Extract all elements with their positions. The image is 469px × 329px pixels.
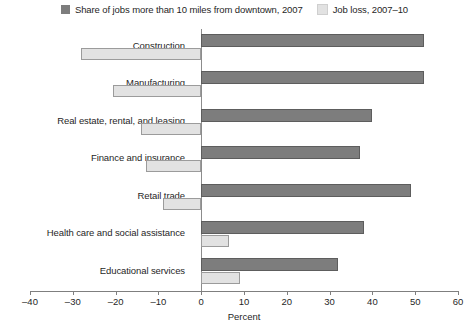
bar-job-loss: [113, 85, 201, 97]
bar-share-of-jobs: [201, 258, 338, 271]
value-axis-tick-label: –40: [22, 296, 38, 308]
legend-item-label: Share of jobs more than 10 miles from do…: [75, 4, 303, 15]
value-axis-tick-label: –30: [65, 296, 81, 308]
value-axis-tick-label: 60: [453, 296, 464, 308]
bar-group-health-care-and-social-assistance: [30, 216, 458, 253]
value-axis-tick-label: –10: [150, 296, 166, 308]
value-axis-tick: [287, 291, 288, 295]
value-axis-tick-label: 50: [410, 296, 421, 308]
value-axis-tick: [158, 291, 159, 295]
bar-group-construction: [30, 29, 458, 66]
bar-job-loss: [146, 160, 202, 172]
bar-job-loss: [201, 272, 240, 284]
value-axis-tick: [201, 291, 202, 295]
bar-share-of-jobs: [201, 71, 424, 84]
value-axis-tick-label: 0: [199, 296, 204, 308]
chart-legend: Share of jobs more than 10 miles from do…: [0, 4, 469, 15]
value-axis-tick: [30, 291, 31, 295]
value-axis-tick-labels: –40–30–20–100102030405060: [30, 296, 458, 310]
value-axis-tick: [415, 291, 416, 295]
value-axis-tick-label: 30: [324, 296, 335, 308]
bar-share-of-jobs: [201, 34, 424, 47]
bar-series-container: [30, 29, 458, 291]
bar-job-loss: [201, 235, 229, 247]
bar-group-finance-and-insurance: [30, 141, 458, 178]
legend-item-job-loss: Job loss, 2007–10: [317, 4, 408, 15]
legend-item-share-of-jobs: Share of jobs more than 10 miles from do…: [61, 4, 303, 15]
bar-share-of-jobs: [201, 184, 411, 197]
value-axis-tick: [116, 291, 117, 295]
bar-share-of-jobs: [201, 109, 372, 122]
value-axis-tick-label: 10: [239, 296, 250, 308]
value-axis-tick: [244, 291, 245, 295]
value-axis-tick-label: 20: [282, 296, 293, 308]
bar-share-of-jobs: [201, 146, 359, 159]
legend-swatch-icon: [61, 5, 70, 14]
value-axis-tick: [73, 291, 74, 295]
value-axis-title: Percent: [30, 311, 458, 323]
bar-group-real-estate-rental-and-leasing: [30, 104, 458, 141]
value-axis-tick-label: –20: [108, 296, 124, 308]
plot-area: [30, 29, 458, 291]
bar-job-loss: [141, 123, 201, 135]
value-axis-tick: [330, 291, 331, 295]
value-axis-tick-label: 40: [367, 296, 378, 308]
legend-item-label: Job loss, 2007–10: [333, 4, 408, 15]
value-axis-tick: [458, 291, 459, 295]
bar-group-retail-trade: [30, 179, 458, 216]
value-axis-tick: [372, 291, 373, 295]
bar-group-manufacturing: [30, 66, 458, 103]
bar-job-loss: [163, 198, 202, 210]
bar-group-educational-services: [30, 253, 458, 290]
bar-share-of-jobs: [201, 221, 364, 234]
bar-job-loss: [81, 48, 201, 60]
legend-swatch-icon: [317, 4, 328, 15]
